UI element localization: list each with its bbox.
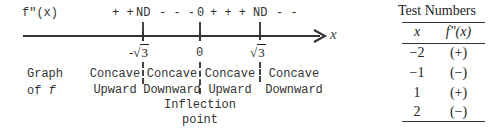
test-table-header-fpp: f"(x) [432, 24, 485, 40]
critical-point-sqrt3: √3 [250, 45, 266, 61]
sign-segment-plus-2: + + + [210, 6, 246, 20]
interval-4-line2: Downward [262, 83, 326, 97]
test-table-cell-sign-1: (+) [432, 45, 485, 61]
interval-3-line2: Upward [201, 83, 259, 97]
inflection-label-line2: point [160, 113, 240, 127]
interval-4-line1: Concave [262, 67, 326, 81]
tick-zero [199, 31, 201, 41]
sign-undefined-1: ND [136, 6, 150, 20]
test-table-cell-sign-3: (+) [432, 85, 485, 101]
graph-row-label-line1: Graph [27, 67, 63, 81]
divider-sqrt3-upper [259, 22, 261, 34]
test-table-cell-sign-4: (−) [432, 104, 485, 120]
interval-2-line2: Downward [143, 83, 201, 97]
test-table-cell-x-2: −1 [402, 65, 432, 81]
test-table-header-rule [402, 43, 485, 44]
graph-row-label-line2: of f [27, 84, 56, 98]
sign-undefined-2: ND [253, 6, 267, 20]
test-table-cell-x-4: 2 [402, 104, 432, 120]
test-table-cell-sign-2: (−) [432, 65, 485, 81]
tick-neg-sqrt3 [142, 31, 144, 41]
critical-point-zero: 0 [196, 46, 203, 60]
interval-3-line1: Concave [201, 67, 259, 81]
sign-zero: 0 [197, 6, 204, 20]
sign-segment-plus-1: + + [112, 6, 134, 20]
sign-segment-minus-2: - - [276, 6, 298, 20]
interval-1-line2: Upward [87, 83, 143, 97]
test-table-cell-x-3: 1 [402, 85, 432, 101]
test-table-cell-x-1: −2 [402, 45, 432, 61]
number-line-axis [23, 35, 320, 37]
axis-arrow-icon [312, 28, 328, 44]
test-table-top-rule [402, 22, 485, 23]
tick-sqrt3 [259, 34, 261, 40]
interval-1-line1: Concave [87, 67, 143, 81]
test-table-title: Test Numbers [398, 3, 476, 19]
divider-sqrt3-lower [259, 62, 261, 82]
test-table-bottom-rule [402, 121, 485, 122]
test-table-header-x: x [402, 24, 432, 40]
sign-segment-minus-1: - - - [159, 6, 195, 20]
critical-point-neg-sqrt3: -√3 [129, 45, 149, 61]
axis-variable-label: x [330, 26, 337, 43]
inflection-label-line1: Inflection [160, 98, 240, 112]
interval-2-line1: Concave [143, 67, 201, 81]
sign-row-label: f"(x) [22, 6, 58, 20]
